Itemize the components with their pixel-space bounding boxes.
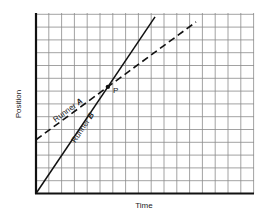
position-time-chart: P Runner A Runner B Position Time [0, 0, 267, 219]
runner-a-label: Runner A [51, 96, 84, 124]
runner-b-label: Runner B [69, 111, 96, 145]
runner-b-line [36, 17, 155, 194]
intersection-point-p [106, 85, 110, 89]
x-axis-title: Time [135, 201, 153, 210]
y-axis-title: Position [14, 90, 23, 118]
point-p-label: P [113, 86, 118, 95]
